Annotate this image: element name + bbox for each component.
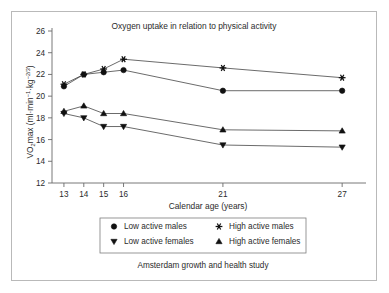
legend-label: Low active females [124,237,194,246]
x-tick-label: 13 [59,190,69,199]
svg-text:VO2max (ml·min−1·kg−2/3): VO2max (ml·min−1·kg−2/3) [25,65,36,158]
legend-label: High active males [229,222,294,231]
y-tick-label: 14 [36,157,46,166]
data-point-triangle-down [220,143,226,148]
y-tick-label: 20 [36,92,46,101]
series-low-active-males [61,67,345,93]
oxygen-uptake-line-chart: 1214161820222426 131415162127 Oxygen upt… [0,0,389,293]
x-tick-label: 16 [119,190,129,199]
data-point-triangle-down [81,116,87,121]
data-point-circle [121,67,126,72]
data-point-triangle-down [101,124,107,129]
x-tick-label: 21 [218,190,228,199]
y-tick-label: 24 [36,49,46,58]
y-tick-label: 16 [36,136,46,145]
x-tick-label: 15 [99,190,109,199]
data-point-triangle-up [339,128,345,133]
y-tick-label: 18 [36,114,46,123]
data-point-triangle-up [120,110,126,115]
x-tick-label: 14 [79,190,89,199]
chart-title: Oxygen uptake in relation to physical ac… [112,21,278,31]
data-point-circle [220,88,225,93]
legend-item-high-active-females[interactable]: High active females [216,237,301,246]
y-axis-ticks: 1214161820222426 [36,27,52,188]
x-axis-ticks: 131415162127 [59,183,347,199]
legend-item-low-active-females[interactable]: Low active females [111,237,194,246]
y-axis-label: VO2max (ml·min−1·kg−2/3) [25,65,36,158]
legend-label: High active females [229,237,300,246]
data-point-asterisk [220,65,227,71]
data-point-triangle-down [339,145,345,150]
data-point-asterisk [339,75,346,81]
x-axis-label: Calendar age (years) [169,201,248,211]
x-tick-label: 27 [338,190,348,199]
series-group [61,56,346,150]
y-tick-label: 26 [36,27,46,36]
figure-container: 1214161820222426 131415162127 Oxygen upt… [0,0,389,293]
legend: Low active malesHigh active malesLow act… [100,218,306,253]
legend-label: Low active males [124,222,187,231]
y-tick-label: 22 [36,70,46,79]
data-point-circle [339,88,344,93]
legend-marker-circle-icon [111,224,116,229]
y-tick-label: 12 [36,179,46,188]
data-point-triangle-up [81,103,87,108]
figure-caption: Amsterdam growth and health study [137,261,269,270]
data-point-asterisk [120,56,127,62]
